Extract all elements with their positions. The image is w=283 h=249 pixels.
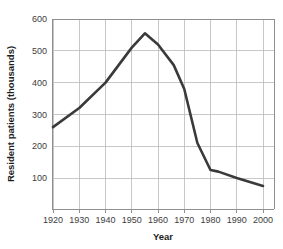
x-tick-label-1970: 1970 bbox=[174, 215, 194, 225]
y-tick-label-400: 400 bbox=[32, 78, 47, 88]
x-tickmarks bbox=[53, 209, 263, 213]
y-axis-title: Resident patients (thousands) bbox=[5, 46, 16, 182]
y-tick-label-100: 100 bbox=[32, 173, 47, 183]
x-tick-label-1930: 1930 bbox=[69, 215, 89, 225]
x-tick-label-1950: 1950 bbox=[122, 215, 142, 225]
y-tick-label-500: 500 bbox=[32, 46, 47, 56]
x-tick-label-1960: 1960 bbox=[148, 215, 168, 225]
x-tick-label-1920: 1920 bbox=[43, 215, 63, 225]
x-axis-title: Year bbox=[153, 231, 173, 242]
x-tick-label-1980: 1980 bbox=[200, 215, 220, 225]
y-tick-label-200: 200 bbox=[32, 141, 47, 151]
y-tick-label-600: 600 bbox=[32, 14, 47, 24]
x-tick-labels: 192019301940195019601970198019902000 bbox=[43, 215, 273, 225]
x-tick-label-1940: 1940 bbox=[95, 215, 115, 225]
chart-canvas: 100200300400500600 192019301940195019601… bbox=[0, 0, 283, 249]
line-chart: 100200300400500600 192019301940195019601… bbox=[0, 0, 283, 249]
x-tick-label-2000: 2000 bbox=[253, 215, 273, 225]
y-tick-labels: 100200300400500600 bbox=[32, 14, 47, 183]
x-tick-label-1990: 1990 bbox=[227, 215, 247, 225]
y-tick-label-300: 300 bbox=[32, 110, 47, 120]
